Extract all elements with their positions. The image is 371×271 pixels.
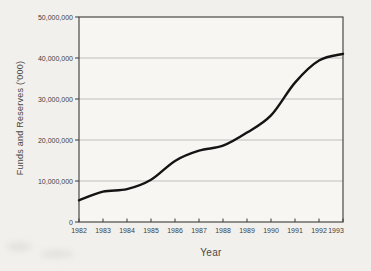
funds-reserves-line-chart: Funds and Reserves ('000) Year 010,000,0…	[0, 0, 371, 271]
y-tick-label: 20,000,000	[38, 137, 73, 144]
y-tick-label: 50,000,000	[38, 14, 73, 21]
x-tick-label: 1989	[239, 227, 255, 234]
y-axis-title: Funds and Reserves ('000)	[15, 61, 25, 176]
y-tick-label: 0	[69, 219, 73, 226]
x-tick-label: 1983	[95, 227, 111, 234]
x-tick-label: 1992	[311, 227, 327, 234]
x-tick-label: 1986	[167, 227, 183, 234]
y-tick-label: 40,000,000	[38, 55, 73, 62]
scanned-chart-page: Funds and Reserves ('000) Year 010,000,0…	[0, 0, 371, 271]
x-tick-label: 1985	[143, 227, 159, 234]
y-tick-label: 10,000,000	[38, 178, 73, 185]
x-tick-label: 1991	[287, 227, 303, 234]
x-tick-label: 1990	[263, 227, 279, 234]
x-tick-label: 1993	[328, 227, 344, 234]
x-tick-label: 1988	[215, 227, 231, 234]
x-tick-label: 1987	[191, 227, 207, 234]
x-tick-label: 1982	[71, 227, 87, 234]
y-tick-label: 30,000,000	[38, 96, 73, 103]
x-tick-label: 1984	[119, 227, 135, 234]
x-axis-title: Year	[200, 247, 222, 258]
